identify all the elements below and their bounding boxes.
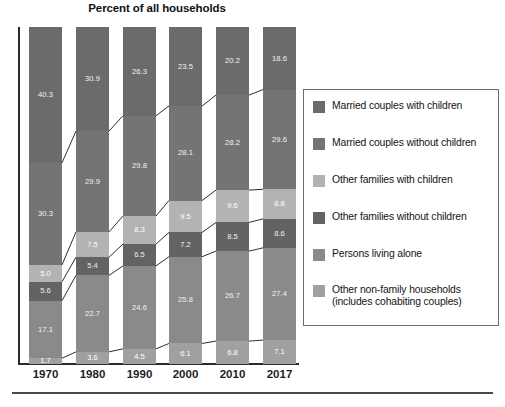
legend-swatch-icon <box>313 285 325 297</box>
bar-column-2017[interactable]: 18.629.68.88.627.47.1 <box>263 27 296 364</box>
bar-segment[interactable]: 4.5 <box>123 349 156 364</box>
bar-column-1990[interactable]: 26.329.88.36.524.64.5 <box>123 27 156 364</box>
legend-item[interactable]: Married couples without children <box>313 137 495 150</box>
legend-swatch-icon <box>313 101 325 113</box>
bar-column-1980[interactable]: 30.929.97.55.422.73.6 <box>76 27 109 364</box>
chart-title: Percent of all households <box>47 2 267 14</box>
legend-item[interactable]: Other families with children <box>313 174 495 187</box>
bar-segment-value: 28.2 <box>225 139 240 147</box>
bar-segment[interactable]: 23.5 <box>169 27 202 106</box>
bar-segment-value: 17.1 <box>38 326 53 334</box>
bar-segment-value: 7.2 <box>180 241 191 249</box>
bar-segment-value: 20.2 <box>225 57 240 65</box>
bar-segment-value: 6.1 <box>180 350 191 358</box>
chart-legend: Married couples with childrenMarried cou… <box>303 89 499 326</box>
bar-segment[interactable]: 30.3 <box>29 163 62 265</box>
legend-swatch-icon <box>313 212 325 224</box>
bar-segment[interactable]: 27.4 <box>263 248 296 340</box>
legend-item-label: Persons living alone <box>332 248 422 260</box>
bar-column-1970[interactable]: 40.330.35.05.617.11.7 <box>29 27 62 364</box>
bar-segment[interactable]: 5.6 <box>29 282 62 301</box>
bar-segment-value: 26.3 <box>132 68 147 76</box>
bar-segment[interactable]: 40.3 <box>29 27 62 163</box>
bar-segment-value: 8.6 <box>274 230 285 238</box>
bar-segment[interactable]: 28.2 <box>216 95 249 190</box>
bar-segment[interactable]: 7.2 <box>169 232 202 256</box>
x-axis-tick-labels: 197019801990200020102017 <box>18 368 299 386</box>
bar-segment[interactable]: 29.9 <box>76 131 109 232</box>
bar-segment-value: 6.5 <box>134 251 145 259</box>
legend-swatch-icon <box>313 249 325 261</box>
bar-segment[interactable]: 3.6 <box>76 352 109 364</box>
bar-segment-value: 8.3 <box>134 226 145 234</box>
bar-segment-value: 3.6 <box>87 354 98 362</box>
legend-item-label: Other non-family households(includes coh… <box>332 284 462 309</box>
legend-item[interactable]: Persons living alone <box>313 248 495 261</box>
x-axis-label-2000: 2000 <box>163 368 209 380</box>
bar-segment-value: 1.7 <box>40 358 51 364</box>
bar-segment[interactable]: 6.5 <box>123 244 156 266</box>
bar-segment-value: 6.8 <box>227 349 238 357</box>
bar-segment-value: 26.7 <box>225 292 240 300</box>
stacked-bar-chart: Percent of all households 40.330.35.05.6… <box>0 0 505 407</box>
bar-segment[interactable]: 6.8 <box>216 341 249 364</box>
bar-column-2010[interactable]: 20.228.29.68.526.76.8 <box>216 27 249 364</box>
bar-column-2000[interactable]: 23.528.19.57.225.86.1 <box>169 27 202 364</box>
bar-segment[interactable]: 8.5 <box>216 222 249 251</box>
bar-segment-value: 29.6 <box>272 136 287 144</box>
legend-item[interactable]: Married couples with children <box>313 100 495 113</box>
x-axis-label-2017: 2017 <box>257 368 303 380</box>
footer-divider <box>12 392 493 394</box>
bar-segment[interactable]: 20.2 <box>216 27 249 95</box>
x-axis-label-1990: 1990 <box>117 368 163 380</box>
legend-swatch-icon <box>313 175 325 187</box>
bar-segment[interactable]: 24.6 <box>123 266 156 349</box>
bar-segment[interactable]: 9.6 <box>216 190 249 222</box>
bar-segment[interactable]: 17.1 <box>29 301 62 359</box>
legend-item[interactable]: Other non-family households(includes coh… <box>313 284 495 309</box>
bar-segment[interactable]: 28.1 <box>169 106 202 201</box>
legend-item-label: Married couples with children <box>332 100 462 112</box>
bar-segment[interactable]: 18.6 <box>263 27 296 90</box>
bar-segment-value: 30.3 <box>38 210 53 218</box>
bar-segment-value: 25.8 <box>178 296 193 304</box>
bar-segment-value: 27.4 <box>272 290 287 298</box>
bar-segment-value: 7.1 <box>274 348 285 356</box>
bar-segment[interactable]: 30.9 <box>76 27 109 131</box>
x-axis-label-2010: 2010 <box>210 368 256 380</box>
bar-segment[interactable]: 5.0 <box>29 265 62 282</box>
bar-segment-value: 5.0 <box>40 270 51 278</box>
bar-segment[interactable]: 29.8 <box>123 116 156 216</box>
legend-item-label: Married couples without children <box>332 137 476 149</box>
bar-segment[interactable]: 7.1 <box>263 340 296 364</box>
bar-segment[interactable]: 8.3 <box>123 216 156 244</box>
bar-segment[interactable]: 8.6 <box>263 219 296 248</box>
bar-segment-value: 5.6 <box>40 287 51 295</box>
bar-segment-value: 9.5 <box>180 213 191 221</box>
bar-segment[interactable]: 1.7 <box>29 358 62 364</box>
bar-segment-value: 28.1 <box>178 149 193 157</box>
bar-segment[interactable]: 7.5 <box>76 232 109 257</box>
bar-segment-value: 5.4 <box>87 262 98 270</box>
bar-segment[interactable]: 26.3 <box>123 27 156 116</box>
legend-item-label: Other families with children <box>332 174 453 186</box>
bar-segment-value: 30.9 <box>85 75 100 83</box>
bar-segment[interactable]: 9.5 <box>169 201 202 233</box>
bar-segment-value: 29.9 <box>85 178 100 186</box>
bar-segment-value: 9.6 <box>227 202 238 210</box>
legend-swatch-icon <box>313 138 325 150</box>
bar-segment-value: 8.5 <box>227 233 238 241</box>
bar-segment[interactable]: 6.1 <box>169 343 202 364</box>
bar-segment[interactable]: 29.6 <box>263 90 296 190</box>
bar-segment-value: 8.8 <box>274 200 285 208</box>
bar-segment[interactable]: 5.4 <box>76 257 109 275</box>
x-axis-label-1980: 1980 <box>70 368 116 380</box>
bar-segment-value: 29.8 <box>132 162 147 170</box>
bar-segment-value: 4.5 <box>134 353 145 361</box>
x-axis-label-1970: 1970 <box>23 368 69 380</box>
bar-segment[interactable]: 26.7 <box>216 251 249 341</box>
bar-segment[interactable]: 22.7 <box>76 275 109 351</box>
legend-item[interactable]: Other families without children <box>313 211 495 224</box>
bar-segment[interactable]: 8.8 <box>263 189 296 219</box>
bar-segment[interactable]: 25.8 <box>169 257 202 344</box>
